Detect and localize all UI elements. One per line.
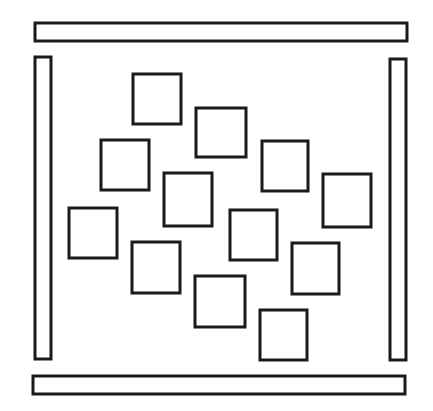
particle-square	[195, 276, 245, 327]
particles-in-box-diagram	[0, 0, 433, 411]
particle-square	[133, 74, 181, 124]
bottom-wall	[33, 376, 405, 394]
left-wall	[35, 57, 51, 359]
particle-square	[323, 174, 371, 227]
particle-square	[164, 173, 212, 226]
particle-square	[132, 242, 180, 293]
particle-square	[262, 141, 308, 191]
particle-square	[101, 140, 149, 190]
particle-square	[196, 108, 246, 157]
particle-square	[230, 210, 277, 260]
top-wall	[35, 23, 407, 41]
particle-square	[260, 310, 307, 360]
particle-square	[292, 243, 339, 294]
right-wall	[390, 59, 406, 360]
particle-square	[69, 208, 117, 258]
particles	[69, 74, 371, 360]
